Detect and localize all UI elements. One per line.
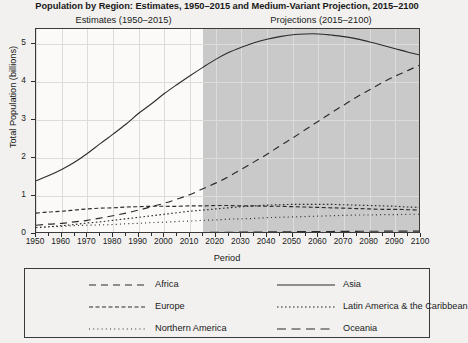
legend-line-sample bbox=[275, 297, 337, 317]
x-tick-label: 2100 bbox=[405, 236, 435, 246]
legend-item-label: Northern America bbox=[155, 323, 227, 333]
legend-line-sample bbox=[87, 297, 149, 317]
series-line-europe bbox=[36, 205, 420, 213]
legend-item-label: Europe bbox=[155, 301, 185, 311]
series-line-africa bbox=[36, 64, 420, 225]
chart-legend: AfricaAsiaEuropeLatin America & the Cari… bbox=[24, 268, 430, 338]
legend-line-sample bbox=[275, 275, 337, 295]
plot-area bbox=[35, 28, 420, 233]
series-line-northern-america bbox=[36, 214, 420, 227]
subtitle-estimates: Estimates (1950–2015) bbox=[36, 15, 211, 25]
y-tick-mark bbox=[31, 157, 35, 158]
y-tick-mark bbox=[31, 119, 35, 120]
legend-item-label: Africa bbox=[155, 279, 179, 289]
series-line-asia bbox=[36, 34, 420, 181]
y-tick-mark bbox=[31, 81, 35, 82]
y-tick-label: 1 bbox=[4, 189, 26, 199]
x-axis-label: Period bbox=[0, 253, 454, 263]
series-lines bbox=[36, 29, 420, 233]
series-line-latin-america-the-caribbean bbox=[36, 204, 420, 227]
legend-line-sample bbox=[87, 275, 149, 295]
legend-item-label: Asia bbox=[343, 279, 361, 289]
legend-item-label: Oceania bbox=[343, 323, 377, 333]
y-axis-label: Total Population (billions) bbox=[8, 27, 18, 167]
legend-line-sample bbox=[87, 319, 149, 339]
legend-item-label: Latin America & the Caribbean bbox=[343, 301, 468, 311]
subtitle-projections: Projections (2015–2100) bbox=[211, 15, 431, 25]
legend-line-sample bbox=[275, 319, 337, 339]
y-tick-mark bbox=[31, 43, 35, 44]
chart-title: Population by Region: Estimates, 1950–20… bbox=[0, 1, 454, 11]
y-tick-mark bbox=[31, 195, 35, 196]
